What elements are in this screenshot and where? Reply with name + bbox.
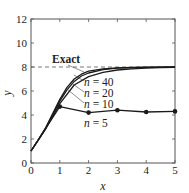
y-tick-label: 6 (22, 85, 28, 97)
label-exact: Exact (52, 53, 80, 65)
label-n10: n = 10 (84, 98, 114, 110)
y-tick-label: 8 (22, 61, 28, 73)
y-tick-label: 2 (22, 133, 28, 145)
data-point (86, 110, 91, 115)
chart: 012345024681012 x y Exact n = 40 n = 20 … (0, 0, 189, 193)
x-tick-label: 3 (115, 164, 121, 176)
leader-n10 (67, 89, 84, 103)
data-point (144, 110, 149, 115)
data-point (115, 108, 120, 113)
x-tick-label: 4 (143, 164, 149, 176)
x-tick-label: 0 (28, 164, 34, 176)
y-tick-label: 10 (16, 37, 28, 49)
x-tick-label: 5 (172, 164, 178, 176)
label-n10-rest: = 10 (90, 98, 114, 110)
y-axis-label: y (0, 90, 14, 97)
label-n5: n = 5 (84, 117, 108, 129)
data-point (173, 109, 178, 114)
y-tick-label: 0 (22, 157, 28, 169)
y-tick-label: 4 (22, 109, 28, 121)
x-tick-label: 1 (57, 164, 63, 176)
x-tick-label: 2 (86, 164, 92, 176)
x-axis-label: x (99, 179, 106, 193)
leader-exact (68, 65, 84, 72)
data-point (58, 104, 63, 109)
label-n5-rest: = 5 (90, 117, 108, 129)
y-tick-label: 12 (16, 13, 27, 25)
